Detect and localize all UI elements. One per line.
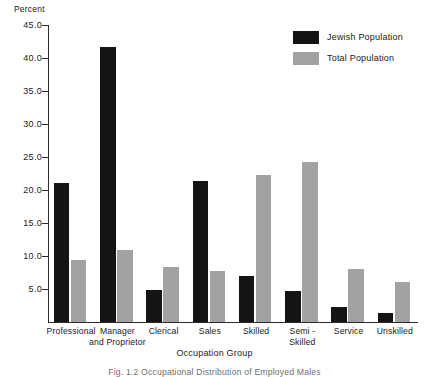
- y-axis-tick-label: 35.0: [6, 86, 42, 96]
- bar-chart-figure: Percent 45.040.035.030.025.020.015.010.0…: [0, 0, 429, 377]
- bar-jewish: [193, 181, 209, 322]
- x-axis-category-label: Unskilled: [366, 326, 424, 337]
- y-axis-tick-label: 40.0: [6, 53, 42, 63]
- bar-jewish: [239, 276, 255, 322]
- bar-total: [210, 271, 226, 322]
- legend-label-total-population: Total Population: [327, 53, 394, 63]
- x-axis-line: [48, 322, 418, 323]
- x-axis-title: Occupation Group: [0, 348, 429, 358]
- bar-jewish: [54, 183, 70, 322]
- legend-item-total-population: Total Population: [293, 50, 403, 66]
- legend-swatch-jewish-population: [293, 31, 319, 44]
- legend: Jewish Population Total Population: [293, 29, 403, 71]
- y-axis-tick-label: 25.0: [6, 152, 42, 162]
- figure-caption: Fig. 1.2 Occupational Distribution of Em…: [0, 367, 429, 377]
- y-axis-tick-label: 5.0: [6, 284, 42, 294]
- bar-jewish: [331, 307, 347, 322]
- bar-total: [256, 175, 272, 322]
- bar-jewish: [378, 313, 394, 322]
- y-axis-tick-label: 10.0: [6, 251, 42, 261]
- bar-jewish: [146, 290, 162, 322]
- y-axis-tick-label: 15.0: [6, 218, 42, 228]
- bar-total: [71, 260, 87, 322]
- bar-total: [302, 162, 318, 322]
- y-axis-tick-label: 20.0: [6, 185, 42, 195]
- bar-jewish: [100, 47, 116, 322]
- legend-item-jewish-population: Jewish Population: [293, 29, 403, 45]
- bar-total: [348, 269, 364, 322]
- y-axis-tick-label: 45.0: [6, 20, 42, 30]
- bar-total: [395, 282, 411, 322]
- legend-swatch-total-population: [293, 52, 319, 65]
- y-axis-tick-label: 30.0: [6, 119, 42, 129]
- y-axis-title: Percent: [14, 4, 45, 14]
- bar-total: [163, 267, 179, 322]
- legend-label-jewish-population: Jewish Population: [327, 32, 403, 42]
- bar-jewish: [285, 291, 301, 322]
- bar-total: [117, 250, 133, 322]
